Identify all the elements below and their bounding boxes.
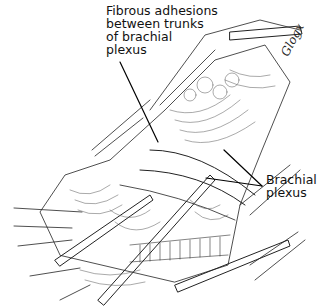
wound-outline — [40, 45, 290, 282]
label-brachial-plexus: Brachial plexus — [266, 173, 317, 199]
label-line: plexus — [106, 43, 218, 56]
vessel — [130, 235, 230, 262]
label-line: plexus — [266, 186, 317, 199]
label-fibrous-adhesions: Fibrous adhesions between trunks of brac… — [106, 4, 218, 56]
leader-brachial-1 — [224, 150, 262, 186]
leader-adhesions — [120, 62, 158, 142]
